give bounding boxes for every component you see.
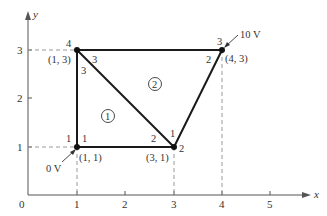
- svg-text:2: 2: [152, 79, 157, 90]
- svg-text:0 V: 0 V: [46, 163, 62, 174]
- local-node-number: 1: [82, 133, 87, 144]
- node-coordinate: (1, 3): [48, 54, 71, 66]
- node-coordinate: (1, 1): [79, 152, 102, 164]
- local-node-number: 2: [206, 54, 211, 65]
- x-tick-label: 3: [171, 198, 177, 210]
- global-node-number: 2: [179, 143, 184, 154]
- x-tick-label: 2: [122, 198, 128, 210]
- y-tick-label: 3: [17, 44, 23, 56]
- y-tick-label: 1: [17, 141, 23, 153]
- x-tick-label: 5: [267, 198, 273, 210]
- global-node-number: 3: [217, 36, 222, 47]
- node-2: [171, 144, 177, 150]
- y-axis-arrow-icon: [25, 11, 31, 20]
- x-axis-arrow-icon: [302, 192, 311, 198]
- svg-text:10 V: 10 V: [240, 29, 261, 40]
- boundary-10v: 10 V: [224, 29, 261, 48]
- local-node-number: 3: [81, 65, 86, 76]
- global-node-number: 4: [66, 38, 72, 49]
- x-tick-label: 1: [74, 198, 80, 210]
- local-node-number: 1: [170, 128, 175, 139]
- node-1: [74, 144, 80, 150]
- mesh-edges: [77, 50, 222, 147]
- element-2-label: 2: [149, 78, 162, 91]
- node-coordinate: (4, 3): [225, 53, 248, 65]
- x-axis-title: x: [313, 188, 319, 200]
- y-axis-title: y: [32, 8, 38, 20]
- finite-element-mesh-diagram: 0 1 2 3 4 5 1 2 3 x y 1 2 3 4 (1, 1) (3,…: [0, 0, 327, 216]
- local-node-number: 2: [151, 133, 156, 144]
- local-node-number: 3: [92, 54, 97, 65]
- node-4: [74, 47, 80, 53]
- y-tick-label: 2: [17, 92, 23, 104]
- node-coordinate: (3, 1): [146, 152, 169, 164]
- x-tick-label: 4: [219, 198, 225, 210]
- element-1-label: 1: [102, 110, 115, 123]
- svg-text:1: 1: [105, 111, 110, 122]
- origin-label: 0: [19, 198, 25, 210]
- global-node-number: 1: [66, 133, 71, 144]
- boundary-0v: 0 V: [46, 149, 76, 174]
